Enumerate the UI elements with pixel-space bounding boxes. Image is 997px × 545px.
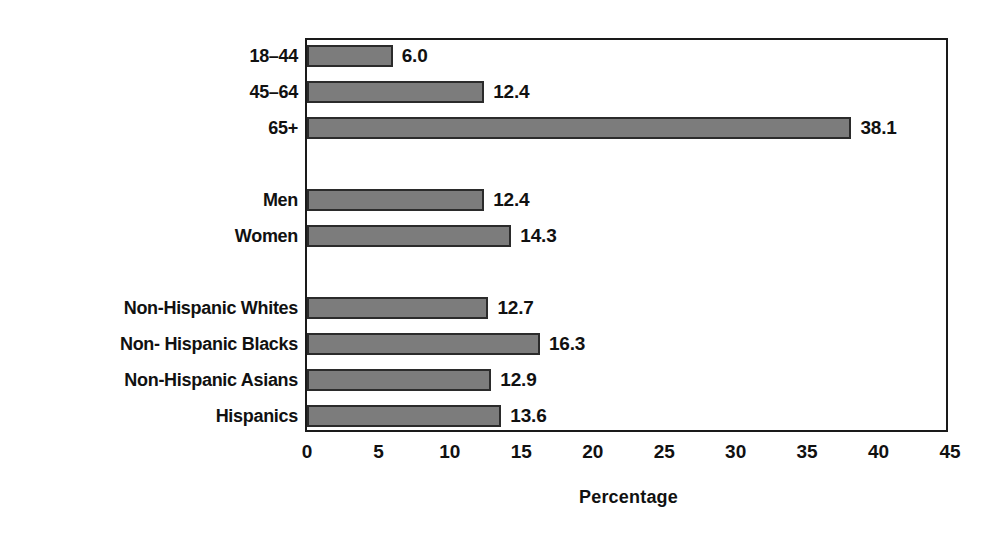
x-tick-label: 20 (582, 441, 603, 463)
bar-row: 13.6 (307, 405, 950, 427)
bar (307, 333, 540, 355)
x-axis-title-text: Percentage (579, 487, 678, 507)
category-axis-labels: 18–4445–6465+MenWomenNon-Hispanic Whites… (0, 0, 298, 545)
bar (307, 369, 491, 391)
x-tick-label: 5 (373, 441, 384, 463)
plot-area: 6.012.438.112.414.312.716.312.913.6 (305, 38, 948, 432)
category-label: Hispanics (216, 406, 298, 427)
bar (307, 81, 484, 103)
category-label: 18–44 (249, 46, 298, 67)
bar-value-label: 38.1 (860, 117, 896, 139)
category-label: 45–64 (249, 82, 298, 103)
bar (307, 405, 501, 427)
bar (307, 225, 511, 247)
bar-value-label: 12.9 (500, 369, 536, 391)
bar-value-label: 12.4 (493, 81, 529, 103)
category-label: Non-Hispanic Asians (124, 370, 298, 391)
bar (307, 189, 484, 211)
x-axis-title: Percentage (0, 487, 997, 508)
bar-row: 14.3 (307, 225, 950, 247)
bar (307, 117, 851, 139)
x-tick-label: 30 (725, 441, 746, 463)
bar-value-label: 13.6 (510, 405, 546, 427)
bar-row: 12.9 (307, 369, 950, 391)
x-tick-label: 35 (797, 441, 818, 463)
bar-value-label: 12.4 (493, 189, 529, 211)
bar-value-label: 14.3 (520, 225, 556, 247)
category-label: Women (235, 226, 298, 247)
bar-row: 16.3 (307, 333, 950, 355)
bar-value-label: 12.7 (497, 297, 533, 319)
bar-value-label: 16.3 (549, 333, 585, 355)
bar-row: 6.0 (307, 45, 950, 67)
x-tick-label: 40 (868, 441, 889, 463)
category-label: Non-Hispanic Whites (124, 298, 298, 319)
x-tick-label: 15 (511, 441, 532, 463)
bar (307, 297, 488, 319)
x-tick-label: 10 (439, 441, 460, 463)
bar (307, 45, 393, 67)
x-tick-label: 0 (302, 441, 313, 463)
category-label: Non- Hispanic Blacks (120, 334, 298, 355)
bar-row: 12.4 (307, 81, 950, 103)
category-label: Men (263, 190, 298, 211)
category-label: 65+ (268, 118, 298, 139)
bar-row: 38.1 (307, 117, 950, 139)
x-tick-label: 45 (939, 441, 960, 463)
bar-chart: 18–4445–6465+MenWomenNon-Hispanic Whites… (0, 0, 997, 545)
bar-value-label: 6.0 (402, 45, 428, 67)
bar-row: 12.4 (307, 189, 950, 211)
x-tick-label: 25 (654, 441, 675, 463)
bar-row: 12.7 (307, 297, 950, 319)
